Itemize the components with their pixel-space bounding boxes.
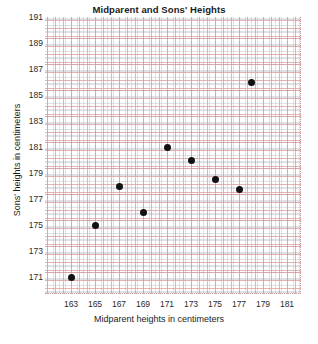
plot-area	[45, 17, 301, 294]
data-point	[92, 222, 99, 229]
y-tick-label: 189	[1, 38, 43, 48]
x-axis-ticks: 163165167169171173175177179181	[45, 299, 301, 313]
data-point	[212, 176, 219, 183]
y-tick-label: 179	[1, 168, 43, 178]
x-tick-label: 181	[269, 299, 305, 309]
major-gridlines	[45, 17, 301, 294]
y-tick-label: 187	[1, 64, 43, 74]
scatter-chart: Midparent and Sons' Heights 171173175177…	[0, 0, 318, 344]
chart-title: Midparent and Sons' Heights	[0, 4, 318, 15]
x-axis-title: Midparent heights in centimeters	[0, 314, 318, 324]
data-point	[140, 209, 147, 216]
y-tick-label: 183	[1, 116, 43, 126]
y-tick-label: 181	[1, 142, 43, 152]
data-point	[236, 186, 243, 193]
data-point	[68, 274, 75, 281]
data-point	[248, 79, 255, 86]
y-tick-label: 177	[1, 194, 43, 204]
data-point	[188, 157, 195, 164]
y-tick-label: 171	[1, 272, 43, 282]
y-tick-label: 185	[1, 90, 43, 100]
y-axis-title: Sons' heights in centimeters	[12, 80, 22, 240]
data-point	[116, 183, 123, 190]
y-tick-label: 173	[1, 246, 43, 256]
y-tick-label: 191	[1, 12, 43, 22]
y-tick-label: 175	[1, 220, 43, 230]
data-point	[164, 144, 171, 151]
